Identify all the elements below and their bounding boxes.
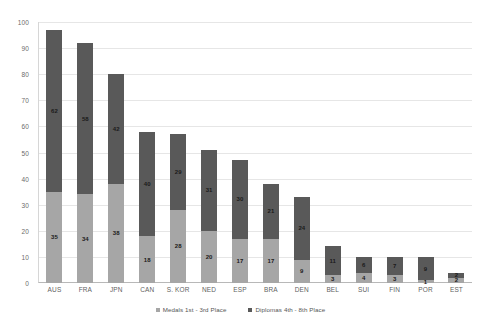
bar-segment-medals[interactable]: 4 [356,273,372,283]
bar-segment-medals[interactable]: 28 [170,210,186,283]
bar-segment-medals[interactable]: 34 [77,194,93,283]
bar-group[interactable]: 113 [317,22,348,283]
bar-segment-medals[interactable]: 17 [232,239,248,283]
bar-group[interactable]: 22 [441,22,472,283]
bar-group[interactable]: 2928 [163,22,194,283]
x-axis-tick-label: CAN [132,286,163,300]
x-axis-tick-label: NED [194,286,225,300]
bar-segment-diplomas[interactable]: 31 [201,150,217,231]
bar-stack[interactable]: 73 [387,257,403,283]
bar-stack[interactable]: 6235 [46,30,62,283]
bar-value-label: 24 [298,225,305,231]
x-axis-tick-label: POR [410,286,441,300]
bar-stack[interactable]: 64 [356,257,372,283]
bar-segment-diplomas[interactable]: 21 [263,184,279,239]
bar-segment-diplomas[interactable]: 62 [46,30,62,192]
legend-item[interactable]: Medals 1st - 3rd Place [156,306,227,313]
legend-label: Diplomas 4th - 8th Place [255,306,325,313]
x-axis-tick-label: S. KOR [163,286,194,300]
bar-value-label: 18 [144,257,151,263]
x-axis-tick-label: EST [441,286,472,300]
bar-segment-diplomas[interactable]: 11 [325,246,341,275]
bar-segment-diplomas[interactable]: 29 [170,134,186,210]
chart-legend: Medals 1st - 3rd PlaceDiplomas 4th - 8th… [0,306,481,313]
bar-segment-diplomas[interactable]: 30 [232,160,248,238]
bar-stack[interactable]: 2117 [263,184,279,283]
bar-segment-medals[interactable]: 38 [108,184,124,283]
y-axis-tick-label: 90 [22,45,29,52]
bar-segment-diplomas[interactable]: 6 [356,257,372,273]
bar-stack[interactable]: 3017 [232,160,248,283]
bar-group[interactable]: 3120 [194,22,225,283]
bar-group[interactable]: 73 [379,22,410,283]
legend-label: Medals 1st - 3rd Place [163,306,227,313]
y-axis-tick-label: 80 [22,71,29,78]
x-axis: AUSFRAJPNCANS. KORNEDESPBRADENBELSUIFINP… [39,286,472,300]
bar-value-label: 17 [267,258,274,264]
x-axis-tick-label: DEN [286,286,317,300]
bar-value-label: 58 [82,116,89,122]
bar-stack[interactable]: 2928 [170,134,186,283]
bar-value-label: 6 [362,262,365,268]
bar-segment-diplomas[interactable]: 42 [108,74,124,184]
x-axis-tick-label: JPN [101,286,132,300]
bar-group[interactable]: 249 [286,22,317,283]
bar-stack[interactable]: 91 [418,257,434,283]
bar-segment-medals[interactable]: 18 [139,236,155,283]
y-axis-tick-label: 50 [22,149,29,156]
bar-segment-medals[interactable]: 3 [325,275,341,283]
bar-segment-medals[interactable]: 9 [294,260,310,283]
x-axis-tick-label: FIN [379,286,410,300]
bar-value-label: 38 [113,230,120,236]
stacked-bar-chart: 0102030405060708090100 62355834423840182… [0,0,481,327]
bar-series-container: 6235583442384018292831203017211724911364… [39,22,472,283]
bar-segment-medals[interactable]: 17 [263,239,279,283]
bar-group[interactable]: 2117 [255,22,286,283]
bar-segment-diplomas[interactable]: 7 [387,257,403,275]
bar-value-label: 62 [51,108,58,114]
bar-segment-medals[interactable]: 2 [448,278,464,283]
bar-group[interactable]: 6235 [39,22,70,283]
bar-stack[interactable]: 5834 [77,43,93,283]
bar-value-label: 20 [206,254,213,260]
legend-swatch-icon [248,308,252,312]
y-axis-tick-label: 0 [25,280,29,287]
bar-value-label: 3 [393,276,396,282]
bar-value-label: 9 [300,268,303,274]
bar-group[interactable]: 5834 [70,22,101,283]
bar-segment-diplomas[interactable]: 24 [294,197,310,260]
bar-group[interactable]: 3017 [225,22,256,283]
y-axis-tick-label: 30 [22,201,29,208]
legend-item[interactable]: Diplomas 4th - 8th Place [248,306,325,313]
x-axis-tick-label: ESP [225,286,256,300]
x-axis-tick-label: AUS [39,286,70,300]
bar-stack[interactable]: 4238 [108,74,124,283]
bar-stack[interactable]: 4018 [139,132,155,283]
bar-segment-diplomas[interactable]: 40 [139,132,155,236]
y-axis: 0102030405060708090100 [0,22,34,283]
y-axis-tick-label: 70 [22,97,29,104]
y-axis-tick-label: 20 [22,227,29,234]
bar-segment-diplomas[interactable]: 9 [418,257,434,280]
bar-segment-medals[interactable]: 20 [201,231,217,283]
bar-segment-medals[interactable]: 1 [418,280,434,283]
bar-group[interactable]: 91 [410,22,441,283]
y-axis-tick-label: 100 [18,19,29,26]
bar-group[interactable]: 4018 [132,22,163,283]
y-axis-tick-label: 10 [22,253,29,260]
bar-stack[interactable]: 22 [448,273,464,283]
bar-group[interactable]: 4238 [101,22,132,283]
bar-stack[interactable]: 113 [325,246,341,283]
bar-stack[interactable]: 249 [294,197,310,283]
bar-segment-medals[interactable]: 3 [387,275,403,283]
bar-segment-medals[interactable]: 35 [46,192,62,283]
bar-value-label: 30 [237,196,244,202]
x-axis-tick-label: BRA [255,286,286,300]
bar-group[interactable]: 64 [348,22,379,283]
x-axis-tick-label: FRA [70,286,101,300]
bar-value-label: 7 [393,263,396,269]
bar-segment-diplomas[interactable]: 58 [77,43,93,194]
bar-value-label: 1 [424,279,427,285]
bar-stack[interactable]: 3120 [201,150,217,283]
bar-value-label: 2 [455,277,458,283]
